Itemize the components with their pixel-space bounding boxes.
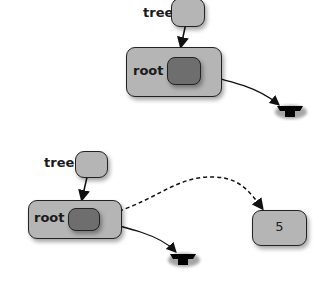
- root-pointer-cell: [167, 57, 201, 85]
- root-label: root: [133, 63, 164, 78]
- value-5-text: 5: [252, 219, 307, 234]
- tree-label-2: tree: [44, 155, 74, 170]
- ground-null-icon-2: [168, 253, 200, 267]
- tree-pointer-box: [171, 0, 205, 27]
- root-label-2: root: [34, 210, 65, 225]
- root-pointer-cell-2: [68, 208, 100, 231]
- tree-pointer-box-2: [75, 151, 108, 178]
- ground-null-icon: [275, 105, 307, 119]
- tree-label: tree: [143, 5, 173, 20]
- diagram-canvas: tree root tree root 5: [0, 0, 327, 286]
